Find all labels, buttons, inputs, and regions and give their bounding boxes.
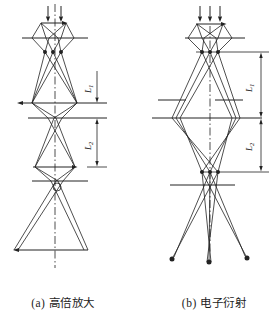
objective-ray-bundle-a — [32, 23, 77, 103]
projector-ray-bundle-a — [14, 167, 88, 250]
tem-ray-diagram-figure: L1 L2 — [0, 0, 275, 327]
diffraction-spot — [51, 50, 55, 54]
incident-ray-arrowheads-a — [46, 17, 63, 23]
back-focal-spots-a — [43, 50, 63, 54]
final-image-arrowhead-a — [13, 248, 19, 252]
panel-a-ray-diagram: L1 L2 — [13, 4, 107, 268]
incident-ray-arrowheads-b — [198, 17, 222, 23]
caption-panel-b: (b) 电子衍射 — [154, 294, 274, 310]
incident-rays-b — [200, 6, 220, 17]
dimension-arrow-l1-a — [95, 98, 98, 103]
label-l1-a: L1 — [83, 85, 94, 94]
label-l1-sub-b: 1 — [248, 84, 255, 87]
label-l2-b: L2 — [244, 142, 255, 152]
panel-b-ray-diagram: L1 L2 — [152, 6, 269, 265]
diamond-ray-bundle-b — [172, 52, 240, 172]
diffraction-spot — [170, 257, 175, 262]
diffraction-spot — [245, 256, 250, 261]
label-l1-sub-a: 1 — [87, 85, 94, 88]
diffraction-spot — [207, 260, 212, 265]
label-l2-a: L2 — [83, 141, 94, 151]
label-l2-sub-a: 2 — [87, 141, 94, 145]
first-image-arrowhead-a — [17, 101, 23, 105]
screen-spots-b — [170, 256, 250, 265]
intermediate-ray-bundle-a — [32, 103, 77, 167]
caption-panel-a: (a) 高倍放大 — [6, 294, 120, 310]
incident-rays-a — [48, 6, 61, 17]
ray-diagram-canvas: L1 L2 — [0, 0, 275, 327]
label-l1-b: L1 — [244, 84, 255, 93]
label-l2-sub-b: 2 — [248, 142, 255, 146]
diffraction-spot — [59, 50, 63, 54]
diffraction-spot — [43, 50, 47, 54]
